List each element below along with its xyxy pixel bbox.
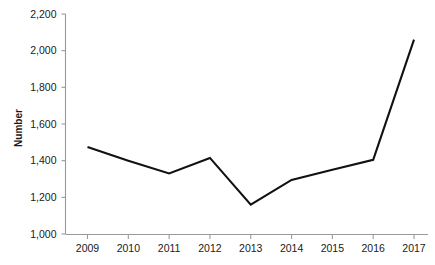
x-tick-label: 2009 — [76, 242, 100, 254]
y-tick-label: 1,600 — [30, 118, 56, 130]
x-tick-label: 2012 — [198, 242, 222, 254]
x-tick-label: 2017 — [402, 242, 426, 254]
x-axis-ticks: 200920102011201220132014201520162017 — [76, 234, 426, 254]
y-tick-label: 1,200 — [30, 191, 56, 203]
y-axis-title: Number — [13, 109, 24, 147]
x-tick-label: 2016 — [362, 242, 386, 254]
x-tick-label: 2014 — [280, 242, 304, 254]
y-tick-label: 2,000 — [30, 44, 56, 56]
chart-canvas: Number 1,0001,2001,4001,6001,8002,0002,2… — [0, 0, 435, 265]
x-tick-label: 2011 — [158, 242, 181, 254]
x-tick-label: 2010 — [117, 242, 141, 254]
x-tick-label: 2015 — [321, 242, 345, 254]
y-tick-label: 2,200 — [30, 8, 56, 20]
y-tick-label: 1,400 — [30, 154, 56, 166]
line-chart: Number 1,0001,2001,4001,6001,8002,0002,2… — [0, 0, 435, 265]
y-tick-label: 1,800 — [30, 81, 56, 93]
y-tick-label: 1,000 — [30, 228, 56, 240]
y-axis-title-label: Number — [13, 109, 24, 147]
x-tick-label: 2013 — [239, 242, 263, 254]
